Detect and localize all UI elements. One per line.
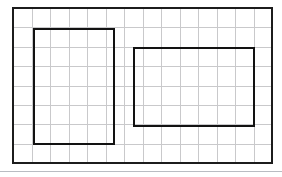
grid-figure (0, 0, 282, 177)
grid-outer-border (13, 8, 272, 163)
grid-frame (13, 8, 272, 163)
grid-minor-lines (13, 8, 272, 163)
figure-container (0, 0, 282, 177)
